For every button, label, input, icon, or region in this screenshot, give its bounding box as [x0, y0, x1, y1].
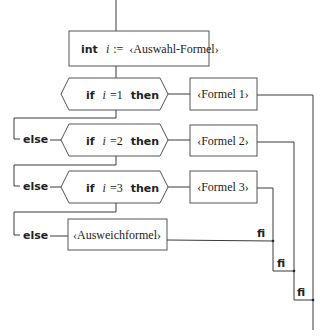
- condition-1: if i =1 then: [61, 78, 168, 110]
- fi-label-2: fi: [277, 257, 285, 270]
- svg-text:‹Formel 2›: ‹Formel 2›: [197, 134, 249, 148]
- else-label-3: else: [23, 229, 48, 242]
- formula-3-box: ‹Formel 3›: [190, 171, 257, 203]
- formula-2-box: ‹Formel 2›: [190, 125, 257, 156]
- else-label-1: else: [23, 133, 48, 146]
- fi-label-3: fi: [297, 286, 305, 299]
- svg-text:‹Ausweichformel›: ‹Ausweichformel›: [73, 228, 161, 242]
- svg-text:‹Formel 3›: ‹Formel 3›: [197, 180, 249, 194]
- formula-1-box: ‹Formel 1›: [190, 78, 257, 110]
- fallback-box: ‹Ausweichformel›: [68, 219, 167, 250]
- assignment-box: int i := ‹Auswahl-Formel›: [69, 31, 219, 66]
- flowchart: int i := ‹Auswahl-Formel› if i =1 then ‹…: [0, 0, 322, 336]
- else-label-2: else: [23, 180, 48, 193]
- condition-3: if i =3 then: [61, 171, 168, 203]
- fi-label-1: fi: [257, 227, 265, 240]
- svg-text:int i := ‹Au: int i := ‹Auswahl-Formel›: [81, 39, 219, 56]
- svg-text:‹Formel 1›: ‹Formel 1›: [197, 87, 249, 101]
- condition-2: if i =2 then: [61, 124, 168, 156]
